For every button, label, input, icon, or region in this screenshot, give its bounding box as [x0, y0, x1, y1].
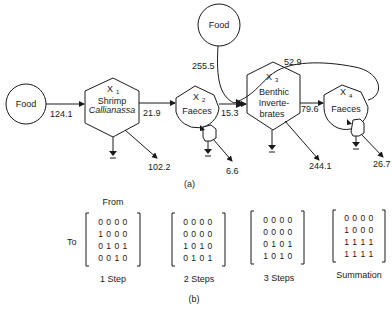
x3-line2: Inverte-	[259, 98, 290, 108]
matrix-1-step: 0 0 0 0 1 0 0 0 0 1 0 1 0 0 1 0 1 Step	[86, 213, 140, 284]
matrix-3-label: 3 Steps	[264, 273, 295, 283]
matrix-2-steps: 0 0 0 0 0 0 0 0 1 0 1 0 0 1 0 1 2 Steps	[172, 213, 225, 284]
flow-x2-out-value: 6.6	[226, 166, 239, 176]
food-source-top: Food	[198, 4, 240, 46]
x2-line1: Faeces	[182, 106, 212, 116]
caption-b: (b)	[189, 294, 200, 304]
svg-text:0 0 0 0: 0 0 0 0	[263, 227, 293, 237]
flow-x4-out	[361, 134, 383, 157]
flow-food-to-x3-value: 255.5	[192, 61, 215, 71]
x2-var: X	[193, 92, 199, 102]
svg-text:1 0 0 0: 1 0 0 0	[98, 229, 128, 239]
food-source-left: Food	[6, 84, 46, 124]
svg-text:1 1 1 1: 1 1 1 1	[344, 249, 374, 259]
x1-var: X	[107, 84, 113, 94]
flow-x4-out-value: 26.7	[373, 159, 391, 169]
svg-text:0 1 0 1: 0 1 0 1	[98, 241, 128, 251]
x1-line2: Callianassa	[89, 105, 136, 115]
svg-text:1 1 1 1: 1 1 1 1	[344, 237, 374, 247]
ground-icon	[268, 130, 276, 152]
caption-a: (a)	[184, 179, 195, 189]
flow-x1-out-value: 102.2	[148, 162, 171, 172]
node-x1-shrimp: X 1 Shrimp Callianassa	[85, 78, 139, 137]
from-label: From	[103, 197, 124, 207]
svg-text:1 0 1 0: 1 0 1 0	[183, 241, 213, 251]
flow-x3-out-value: 244.1	[309, 161, 332, 171]
matrix-summation-label: Summation	[336, 270, 382, 280]
node-x4-faeces: X 4 Faeces	[324, 85, 368, 136]
svg-text:0 0 0 0: 0 0 0 0	[344, 213, 374, 223]
flow-x1-to-x2-value: 21.9	[143, 108, 161, 118]
flow-x2-to-x3-value: 15.3	[221, 108, 239, 118]
svg-text:1 0 1 0: 1 0 1 0	[263, 251, 293, 261]
food-left-label: Food	[16, 99, 37, 109]
flow-x2-out	[213, 139, 232, 161]
food-top-label: Food	[209, 20, 230, 30]
svg-text:0 0 0 0: 0 0 0 0	[263, 215, 293, 225]
ecosystem-flow-diagram: Food 124.1 X 1 Shrimp Callianassa 102.2 …	[0, 0, 392, 309]
svg-text:0 0 0 0: 0 0 0 0	[183, 229, 213, 239]
flow-x3-out	[285, 121, 319, 160]
flow-x3-to-x4-value: 79.6	[301, 104, 319, 114]
flow-x4-to-x3-value: 52.9	[284, 57, 302, 67]
x3-line3: brates	[259, 109, 285, 119]
svg-text:1 0 0 0: 1 0 0 0	[344, 225, 374, 235]
svg-text:0 1 0 1: 0 1 0 1	[183, 253, 213, 263]
matrix-2-label: 2 Steps	[184, 274, 215, 284]
ground-icon	[352, 136, 360, 149]
node-x2-faeces: X 2 Faeces	[176, 86, 219, 141]
x4-line1: Faeces	[331, 104, 361, 114]
x3-line1: Benthic	[259, 87, 290, 97]
svg-text:0 0 0 0: 0 0 0 0	[98, 217, 128, 227]
ground-icon	[204, 141, 212, 156]
flow-food-to-x1-value: 124.1	[50, 109, 73, 119]
x4-var: X	[340, 87, 346, 97]
flow-food-to-x3	[218, 46, 234, 103]
matrix-3-steps: 0 0 0 0 0 0 0 0 0 1 0 1 1 0 1 0 3 Steps	[251, 211, 304, 283]
node-x3-benthic-invertebrates: X 3 Benthic Inverte- brates	[247, 62, 300, 130]
x4-valve-icon	[351, 119, 364, 136]
x2-valve-icon	[203, 125, 216, 141]
ground-icon	[109, 137, 117, 158]
matrix-summation: 0 0 0 0 1 0 0 0 1 1 1 1 1 1 1 1 Summatio…	[333, 210, 385, 280]
svg-text:0 0 1 0: 0 0 1 0	[98, 253, 128, 263]
svg-text:0 1 0 1: 0 1 0 1	[263, 239, 293, 249]
matrix-1-label: 1 Step	[100, 274, 126, 284]
to-label: To	[67, 237, 77, 247]
svg-text:0 0 0 0: 0 0 0 0	[183, 217, 213, 227]
flow-x1-out	[125, 130, 157, 158]
